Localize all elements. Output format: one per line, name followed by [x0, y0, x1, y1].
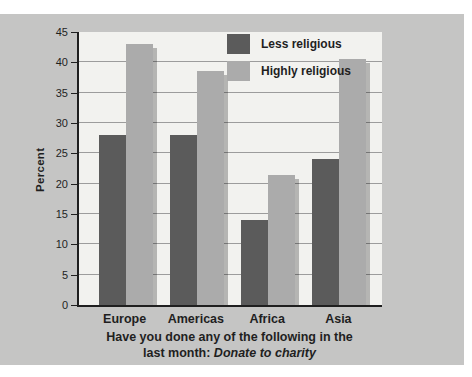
y-tick-mark-10 — [71, 244, 77, 245]
chart-title-line2: last month: Donate to charity — [67, 345, 392, 361]
y-tick-mark-35 — [71, 93, 77, 94]
chart-title-line2-prefix: last month: — [143, 346, 214, 360]
chart-title-line1: Have you done any of the following in th… — [67, 329, 392, 345]
y-tick-label-15: 15 — [38, 207, 68, 221]
y-tick-label-20: 20 — [38, 177, 68, 191]
y-tick-label-45: 45 — [38, 25, 68, 39]
bar-group-europe — [91, 32, 162, 305]
y-tick-label-25: 25 — [38, 146, 68, 160]
bar-highly-religious-africa — [268, 175, 295, 305]
bar-less-religious-europe — [99, 135, 126, 305]
legend-swatch-less-religious — [227, 34, 250, 54]
legend-swatch-highly-religious — [227, 61, 250, 81]
legend: Less religious Highly religious — [227, 34, 351, 88]
y-tick-mark-30 — [71, 123, 77, 124]
y-tick-label-30: 30 — [38, 116, 68, 130]
bar-group-americas — [162, 32, 233, 305]
bar-highly-religious-americas — [197, 71, 224, 305]
bar-less-religious-americas — [170, 135, 197, 305]
category-label-americas: Americas — [160, 312, 231, 326]
y-tick-label-40: 40 — [38, 55, 68, 69]
bar-highly-religious-europe — [126, 44, 153, 305]
y-tick-label-5: 5 — [38, 268, 68, 282]
y-tick-mark-40 — [71, 62, 77, 63]
chart-title-line2-italic: Donate to charity — [214, 346, 316, 360]
legend-item-highly-religious: Highly religious — [227, 61, 351, 81]
legend-item-less-religious: Less religious — [227, 34, 351, 54]
y-tick-mark-25 — [71, 153, 77, 154]
chart-panel: Percent Less religious Highly religious … — [0, 14, 464, 365]
y-tick-mark-20 — [71, 184, 77, 185]
bar-less-religious-africa — [241, 220, 268, 305]
y-tick-mark-15 — [71, 214, 77, 215]
y-axis-title: Percent — [34, 85, 46, 255]
y-tick-label-0: 0 — [38, 298, 68, 312]
y-tick-mark-0 — [71, 305, 77, 306]
y-tick-label-10: 10 — [38, 237, 68, 251]
legend-label-less-religious: Less religious — [261, 37, 342, 51]
y-tick-label-35: 35 — [38, 86, 68, 100]
legend-label-highly-religious: Highly religious — [261, 64, 351, 78]
chart-title: Have you done any of the following in th… — [67, 329, 392, 361]
plot-area: Less religious Highly religious — [77, 32, 382, 307]
bar-highly-religious-asia — [339, 59, 366, 305]
bar-less-religious-asia — [312, 159, 339, 305]
category-label-africa: Africa — [232, 312, 303, 326]
y-tick-mark-45 — [71, 32, 77, 33]
category-label-asia: Asia — [303, 312, 374, 326]
category-label-europe: Europe — [89, 312, 160, 326]
x-axis-category-labels: EuropeAmericasAfricaAsia — [77, 312, 382, 326]
y-tick-mark-5 — [71, 275, 77, 276]
